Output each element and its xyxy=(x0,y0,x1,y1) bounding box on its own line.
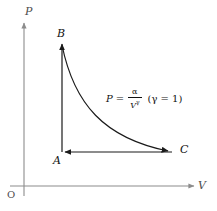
y-axis-label: P xyxy=(25,6,32,17)
equation-fraction: α Vγ xyxy=(128,88,141,110)
point-label-b: B xyxy=(57,28,65,39)
equation-numerator: α xyxy=(130,88,139,97)
point-label-a: A xyxy=(53,155,61,166)
point-label-c: C xyxy=(180,144,188,155)
equation-denominator: Vγ xyxy=(128,98,141,110)
equation-note: (γ = 1) xyxy=(148,93,183,104)
pv-diagram-figure: P V O A B C P = α Vγ (γ = 1) xyxy=(0,0,217,211)
x-axis-label: V xyxy=(198,180,206,191)
equation-lhs: P xyxy=(106,93,113,104)
equation-equals: = xyxy=(116,93,124,104)
origin-label: O xyxy=(7,190,15,200)
denominator-exponent: γ xyxy=(136,98,140,105)
equation-annotation: P = α Vγ (γ = 1) xyxy=(106,88,182,110)
